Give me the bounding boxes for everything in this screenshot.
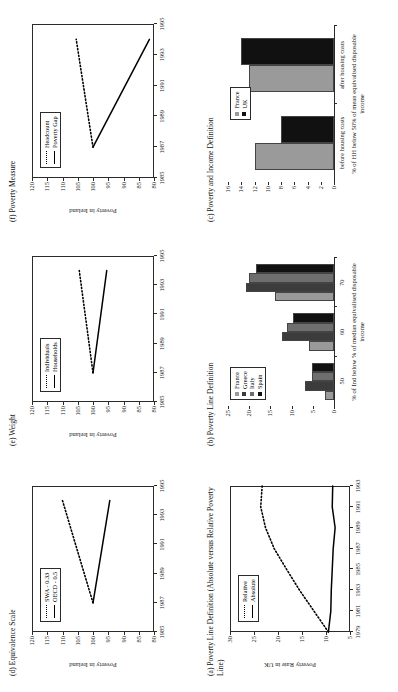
legend-label: Italy xyxy=(248,377,256,389)
legend-line xyxy=(244,605,245,618)
y-tick-label: 12 xyxy=(251,186,258,212)
bar-france-0 xyxy=(255,143,335,170)
legend-label: Households xyxy=(51,342,59,372)
legend-item: Poverty Gap xyxy=(51,116,59,164)
cat-tick xyxy=(334,257,337,258)
legend-label: OECD - 0.5 xyxy=(51,572,59,602)
y-tick-label: 20 xyxy=(245,410,252,436)
series-households xyxy=(93,271,107,373)
series-oecd-0-5 xyxy=(93,501,110,603)
legend-item: France xyxy=(233,371,241,396)
bar-france-2 xyxy=(275,292,334,301)
legend-item: OECD - 0.5 xyxy=(51,572,59,618)
legend-line xyxy=(46,375,47,388)
panel-title-c: (c) Poverty and Income Definition xyxy=(206,16,216,222)
y-tick xyxy=(321,182,322,185)
legend-item: UK xyxy=(241,91,249,115)
panel-title-b: (b) Poverty Line Definition xyxy=(206,248,216,446)
legend-item: Relative xyxy=(241,579,249,618)
legend-item: Spain xyxy=(256,371,264,396)
y-tick-label: 25 xyxy=(224,410,231,436)
y-tick xyxy=(308,182,309,185)
legend-swatch xyxy=(250,392,254,396)
legend-b: FranceGreeceItalySpain xyxy=(230,367,266,400)
y-tick xyxy=(268,182,269,185)
legend-label: Poverty Gap xyxy=(51,116,59,148)
legend-label: Relative xyxy=(241,581,249,602)
legend-line xyxy=(54,151,55,164)
panel-b: (b) Poverty Line Definition0510152025506… xyxy=(206,248,388,446)
category-label: 50 xyxy=(338,357,345,406)
y-tick xyxy=(241,182,242,185)
cat-tick xyxy=(334,25,337,26)
legend-item: Italy xyxy=(248,371,256,396)
legend-label: Headcount xyxy=(43,121,51,148)
legend-label: Absolute xyxy=(249,579,257,602)
legend-line xyxy=(54,375,55,388)
panel-a: (a) Poverty Line Definition (Absolute ve… xyxy=(206,478,388,676)
x-axis-title-b: % of Ind below % of median equivalised d… xyxy=(350,258,366,406)
y-tick xyxy=(228,182,229,185)
legend-swatch xyxy=(235,392,239,396)
legend-swatch xyxy=(235,112,239,116)
category-label: after housing costs xyxy=(338,26,345,104)
category-label: 60 xyxy=(338,307,345,356)
y-tick-label: 15 xyxy=(266,410,273,436)
cat-tick xyxy=(334,103,337,104)
y-tick xyxy=(334,182,335,185)
y-tick xyxy=(292,406,293,409)
legend-label: Greece xyxy=(241,371,249,389)
legend-label: France xyxy=(233,372,241,389)
y-tick-label: 16 xyxy=(224,186,231,212)
y-tick-label: 10 xyxy=(264,186,271,212)
legend-label: UK xyxy=(241,100,249,109)
x-axis-line-c xyxy=(334,26,335,182)
legend-item: SWA - 0.33 xyxy=(43,572,51,618)
series-layer-e xyxy=(8,248,192,446)
y-tick-label: 14 xyxy=(237,186,244,212)
legend-label: SWA - 0.33 xyxy=(43,573,51,602)
legend-line xyxy=(46,605,47,618)
legend-line xyxy=(46,151,47,164)
y-tick xyxy=(228,406,229,409)
bar-spain-1 xyxy=(293,313,334,322)
legend-line xyxy=(252,605,253,618)
bar-france-0 xyxy=(325,391,334,400)
cat-tick xyxy=(334,307,337,308)
x-axis-line-b xyxy=(334,258,335,406)
y-tick-label: 8 xyxy=(277,186,284,212)
y-tick-label: 4 xyxy=(304,186,311,212)
series-absolute xyxy=(328,486,335,632)
x-axis-title-c: % of HH below 50% of mean equivalised di… xyxy=(350,26,366,182)
series-layer-f xyxy=(8,16,192,222)
legend-swatch xyxy=(258,392,262,396)
panel-e: (e) Weight808590951001051101151201985198… xyxy=(8,248,192,446)
y-tick-label: 0 xyxy=(330,410,337,436)
series-relative xyxy=(261,486,329,632)
legend-label: Individuals xyxy=(43,344,51,372)
category-label: before housing costs xyxy=(338,104,345,182)
legend-c: FranceUK xyxy=(230,87,251,119)
bar-spain-2 xyxy=(256,264,334,273)
legend-item: Headcount xyxy=(43,116,51,164)
bar-uk-0 xyxy=(281,116,334,143)
bar-greece-1 xyxy=(282,332,334,341)
y-tick-label: 5 xyxy=(309,410,316,436)
cat-tick xyxy=(334,356,337,357)
panel-d: (d) Equivalence Scale8085909510010511011… xyxy=(8,478,192,676)
y-tick xyxy=(249,406,250,409)
y-tick-label: 6 xyxy=(290,186,297,212)
category-label: 70 xyxy=(338,258,345,307)
legend-line xyxy=(54,605,55,618)
legend-label: Spain xyxy=(256,375,264,389)
y-tick-label: 2 xyxy=(317,186,324,212)
series-headcount xyxy=(76,39,93,147)
series-swa-0-33 xyxy=(63,501,94,603)
legend-d: SWA - 0.33OECD - 0.5 xyxy=(40,568,61,622)
bar-greece-2 xyxy=(246,283,334,292)
bar-uk-1 xyxy=(241,38,334,65)
y-tick xyxy=(313,406,314,409)
legend-swatch xyxy=(242,112,246,116)
bar-france-1 xyxy=(249,65,334,92)
panel-c: (c) Poverty and Income Definition0246810… xyxy=(206,16,388,222)
